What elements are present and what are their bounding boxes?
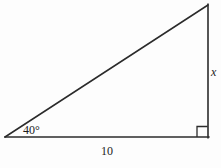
triangle-hypotenuse-line [5,5,208,137]
base-length-label: 10 [101,145,113,157]
figure-canvas: 40° 10 x [0,0,221,168]
watermark-text [140,157,212,167]
right-angle-marker-icon [197,127,208,138]
height-variable-label: x [211,66,216,78]
angle-label: 40° [23,124,40,136]
triangle-svg [0,0,221,168]
